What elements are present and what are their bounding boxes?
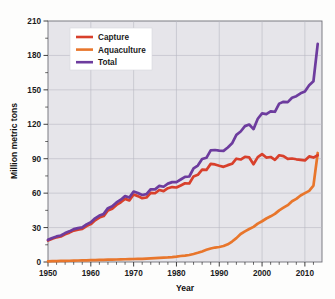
x-tick-label: 1980 [167, 269, 186, 278]
y-tick-label: 30 [32, 224, 42, 233]
y-tick-label: 90 [32, 155, 42, 164]
chart-legend: CaptureAquacultureTotal [70, 28, 152, 70]
y-tick-label: 180 [27, 51, 41, 60]
y-tick-label: 60 [32, 189, 42, 198]
x-tick-label: 1960 [82, 269, 101, 278]
legend-label-total: Total [98, 58, 117, 67]
fisheries-production-line-chart: 0306090120150180210 19501960197019801990… [0, 0, 335, 299]
legend-label-aquaculture: Aquaculture [98, 46, 146, 55]
legend-label-capture: Capture [98, 33, 129, 42]
x-tick-label: 2010 [296, 269, 315, 278]
y-tick-label: 120 [27, 120, 41, 129]
x-tick-label: 1970 [125, 269, 144, 278]
x-tick-label: 2000 [253, 269, 272, 278]
x-tick-label: 1950 [39, 269, 58, 278]
y-tick-label: 210 [27, 17, 41, 26]
x-tick-label: 1990 [210, 269, 229, 278]
y-axis-title: Million metric tons [9, 103, 19, 179]
y-tick-label: 0 [36, 258, 41, 267]
x-axis-title: Year [176, 283, 195, 293]
chart-figure: 0306090120150180210 19501960197019801990… [0, 0, 335, 299]
y-tick-label: 150 [27, 86, 41, 95]
